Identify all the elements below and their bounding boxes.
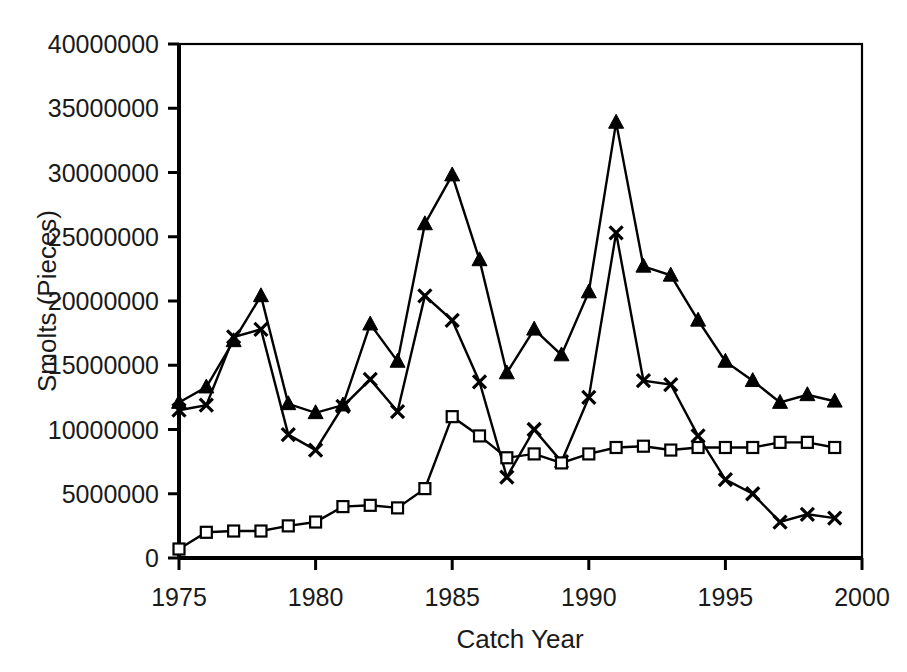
- marker-square: [611, 442, 622, 453]
- marker-square: [693, 442, 704, 453]
- x-tick-label: 1985: [424, 583, 480, 611]
- marker-triangle: [609, 114, 624, 128]
- marker-triangle: [472, 252, 487, 266]
- y-tick-label: 20000000: [48, 287, 159, 315]
- marker-square: [720, 442, 731, 453]
- marker-square: [747, 442, 758, 453]
- marker-square: [474, 430, 485, 441]
- series-polyline: [179, 417, 835, 549]
- x-tick-label: 1995: [698, 583, 754, 611]
- marker-square: [583, 448, 594, 459]
- marker-triangle: [445, 167, 460, 181]
- smolts-line-chart: 0500000010000000150000002000000025000000…: [0, 0, 907, 672]
- y-axis-title: Smolts (Pieces): [32, 210, 62, 392]
- y-tick-label: 40000000: [48, 30, 159, 58]
- marker-square: [775, 437, 786, 448]
- series-square: [174, 411, 841, 554]
- y-tick-label: 15000000: [48, 351, 159, 379]
- marker-square: [283, 520, 294, 531]
- marker-square: [802, 437, 813, 448]
- x-axis-title: Catch Year: [456, 624, 584, 654]
- y-tick-label: 30000000: [48, 159, 159, 187]
- marker-square: [392, 502, 403, 513]
- marker-square: [501, 452, 512, 463]
- plot-frame: [179, 44, 862, 558]
- y-tick-label: 0: [145, 544, 159, 572]
- x-tick-label: 1990: [561, 583, 617, 611]
- marker-triangle: [636, 258, 651, 272]
- marker-square: [829, 442, 840, 453]
- marker-triangle: [691, 312, 706, 326]
- data-series-layer: [172, 114, 843, 554]
- marker-square: [419, 483, 430, 494]
- y-axis-ticks: 0500000010000000150000002000000025000000…: [48, 30, 179, 572]
- marker-square: [638, 441, 649, 452]
- marker-square: [255, 526, 266, 537]
- marker-square: [529, 448, 540, 459]
- marker-square: [556, 457, 567, 468]
- marker-square: [174, 544, 185, 555]
- marker-square: [201, 527, 212, 538]
- marker-square: [337, 501, 348, 512]
- x-axis-ticks: 197519801985199019952000: [151, 558, 890, 611]
- x-tick-label: 1980: [288, 583, 344, 611]
- chart-container: 0500000010000000150000002000000025000000…: [0, 0, 907, 672]
- marker-triangle: [253, 288, 268, 302]
- marker-triangle: [581, 284, 596, 298]
- marker-triangle: [499, 365, 514, 379]
- marker-square: [447, 411, 458, 422]
- y-tick-label: 10000000: [48, 416, 159, 444]
- marker-triangle: [363, 316, 378, 330]
- marker-triangle: [527, 321, 542, 335]
- plot-area-border: [179, 44, 862, 558]
- marker-square: [665, 445, 676, 456]
- marker-triangle: [745, 373, 760, 387]
- x-tick-label: 2000: [834, 583, 890, 611]
- marker-triangle: [800, 387, 815, 401]
- y-tick-label: 5000000: [62, 480, 159, 508]
- y-tick-label: 25000000: [48, 223, 159, 251]
- x-tick-label: 1975: [151, 583, 207, 611]
- marker-square: [228, 526, 239, 537]
- y-tick-label: 35000000: [48, 94, 159, 122]
- marker-triangle: [417, 216, 432, 230]
- marker-triangle: [281, 396, 296, 410]
- marker-square: [365, 500, 376, 511]
- marker-square: [310, 517, 321, 528]
